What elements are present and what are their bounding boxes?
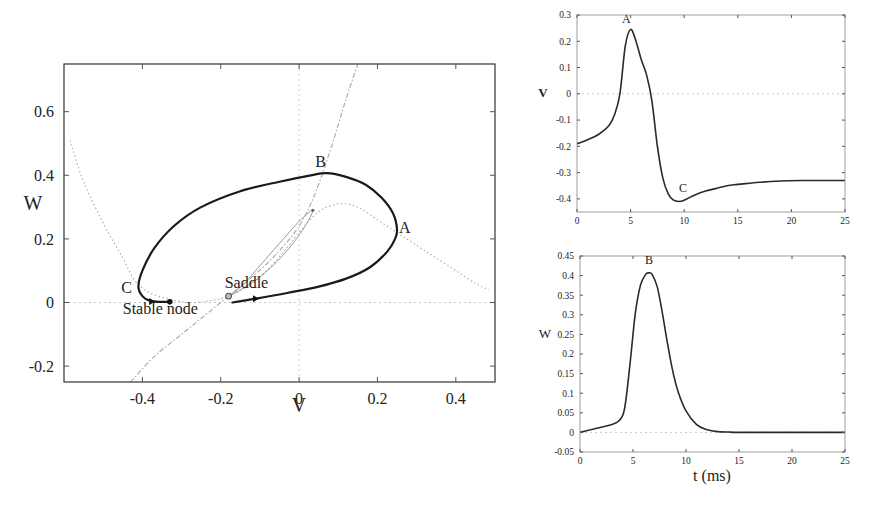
plot-series: [70, 64, 489, 382]
voltage-time-plot: 0510152025-0.4-0.3-0.2-0.100.10.20.3 AC …: [538, 10, 850, 226]
y-axis-label: W: [539, 326, 552, 341]
y-tick-label: 0.4: [562, 271, 574, 281]
v-nullcline-curve: [70, 140, 489, 302]
y-tick-label: 0.05: [557, 408, 574, 418]
y-tick-label: 0.1: [562, 389, 574, 399]
y-tick-label: 0.15: [557, 369, 574, 379]
annotation-label: C: [121, 279, 132, 296]
w-t--curve: [580, 273, 845, 433]
y-tick-label: 0.25: [557, 330, 574, 340]
direction-arrow-icon: [253, 295, 259, 302]
y-tick-label: 0.4: [34, 167, 54, 184]
annotations: B: [645, 253, 653, 267]
x-tick-label: 10: [679, 216, 689, 226]
y-tick-label: 0.35: [557, 291, 574, 301]
annotation-label: A: [399, 219, 411, 236]
axis-ticks: 0510152025-0.0500.050.10.150.20.250.30.3…: [554, 251, 850, 466]
x-tick-label: 0.4: [446, 390, 466, 407]
x-tick-label: 5: [628, 216, 633, 226]
saddle-marker: [226, 293, 232, 299]
y-tick-label: -0.2: [556, 142, 571, 152]
recovery-time-plot: 0510152025-0.0500.050.10.150.20.250.30.3…: [539, 251, 850, 485]
w-nullcline-curve: [131, 64, 358, 382]
reference-lines: [64, 64, 495, 382]
y-tick-label: -0.3: [556, 168, 571, 178]
x-tick-label: 5: [631, 456, 636, 466]
y-tick-label: 0.2: [34, 231, 54, 248]
annotation-label: Stable node: [123, 300, 198, 317]
plot-frame: [577, 15, 845, 212]
x-axis-label: t (ms): [693, 467, 731, 485]
annotation-label: C: [679, 181, 687, 195]
x-tick-label: 20: [787, 456, 797, 466]
annotation-label: B: [315, 153, 326, 170]
y-tick-label: 0: [569, 428, 574, 438]
axis-ticks: 0510152025-0.4-0.3-0.2-0.100.10.20.3: [556, 10, 850, 226]
x-tick-label: 0: [575, 216, 580, 226]
v-t--curve: [577, 29, 845, 201]
y-tick-label: 0.45: [557, 251, 574, 261]
upper-fixed-point-marker: [311, 209, 314, 212]
phase-plane-plot: -0.4-0.200.20.4-0.200.20.40.6 ABCSaddleS…: [24, 64, 495, 416]
annotation-label: Saddle: [225, 274, 269, 291]
x-tick-label: 20: [787, 216, 797, 226]
axis-ticks: -0.4-0.200.20.4-0.200.20.40.6: [29, 64, 495, 407]
plot-series: [577, 29, 845, 201]
annotations: AC: [622, 12, 687, 195]
x-tick-label: 0.2: [367, 390, 387, 407]
y-axis-label: W: [24, 192, 43, 214]
x-tick-label: 25: [840, 216, 850, 226]
annotation-label: A: [622, 12, 631, 26]
plot-frame: [580, 256, 845, 452]
y-tick-label: -0.4: [556, 194, 571, 204]
plot-series: [580, 273, 845, 433]
x-axis-label: V: [292, 394, 307, 416]
x-tick-label: 0: [578, 456, 583, 466]
x-tick-label: 10: [681, 456, 691, 466]
y-tick-label: 0.2: [562, 349, 574, 359]
annotation-label: B: [645, 253, 653, 267]
y-tick-label: 0.6: [34, 103, 54, 120]
x-tick-label: 15: [733, 216, 743, 226]
x-tick-label: 15: [734, 456, 744, 466]
plot-frame: [64, 64, 495, 382]
y-tick-label: -0.1: [556, 115, 571, 125]
y-tick-label: -0.2: [29, 358, 54, 375]
y-tick-label: 0: [566, 89, 571, 99]
y-tick-label: 0.2: [559, 37, 571, 47]
y-axis-label: V: [538, 85, 548, 100]
x-tick-label: -0.4: [130, 390, 155, 407]
y-tick-label: 0: [46, 294, 54, 311]
y-tick-label: 0.1: [559, 63, 571, 73]
y-tick-label: 0.3: [562, 310, 574, 320]
x-tick-label: -0.2: [208, 390, 233, 407]
y-tick-label: 0.3: [559, 10, 571, 20]
y-tick-label: -0.05: [554, 447, 574, 457]
figure: -0.4-0.200.20.4-0.200.20.40.6 ABCSaddleS…: [0, 0, 869, 505]
x-tick-label: 25: [840, 456, 850, 466]
